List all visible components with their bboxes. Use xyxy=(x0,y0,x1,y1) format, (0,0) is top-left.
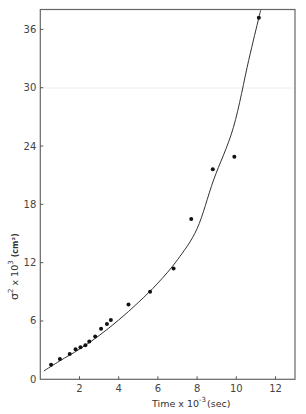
data-point xyxy=(83,343,87,347)
data-point xyxy=(93,335,97,339)
y-axis-title: σ2x 103(cm²) xyxy=(7,233,21,300)
chart: 061218243036 24681012 Time x 10-3(sec) σ… xyxy=(0,0,306,414)
data-point xyxy=(172,266,176,270)
y-tick-label: 36 xyxy=(24,24,37,35)
data-point xyxy=(189,217,193,221)
plot-frame xyxy=(40,10,295,380)
data-point xyxy=(49,363,53,367)
fitted-curve xyxy=(44,10,261,371)
data-point xyxy=(87,339,91,343)
x-tick-label: 6 xyxy=(155,383,161,394)
data-point xyxy=(99,327,103,331)
y-tick-label: 18 xyxy=(24,199,37,210)
data-point xyxy=(105,322,109,326)
x-tick-label: 2 xyxy=(76,383,82,394)
data-point xyxy=(232,155,236,159)
y-tick-label: 30 xyxy=(24,82,37,93)
y-tick-label: 6 xyxy=(30,315,36,326)
y-tick-label: 12 xyxy=(24,257,37,268)
x-tick-label: 12 xyxy=(269,383,282,394)
x-tick-label: 4 xyxy=(116,383,122,394)
data-point xyxy=(109,318,113,322)
y-tick-label: 0 xyxy=(30,374,36,385)
data-point xyxy=(211,167,215,171)
data-point xyxy=(74,347,78,351)
x-tick-label: 10 xyxy=(230,383,243,394)
data-point xyxy=(257,16,261,20)
y-tick-label: 24 xyxy=(24,141,37,152)
data-point xyxy=(148,290,152,294)
data-point xyxy=(58,357,62,361)
x-axis-title: Time x 10-3(sec) xyxy=(151,396,230,409)
x-tick-label: 8 xyxy=(194,383,200,394)
data-point xyxy=(127,302,131,306)
data-points xyxy=(49,16,261,367)
data-point xyxy=(78,345,82,349)
data-point xyxy=(68,352,72,356)
